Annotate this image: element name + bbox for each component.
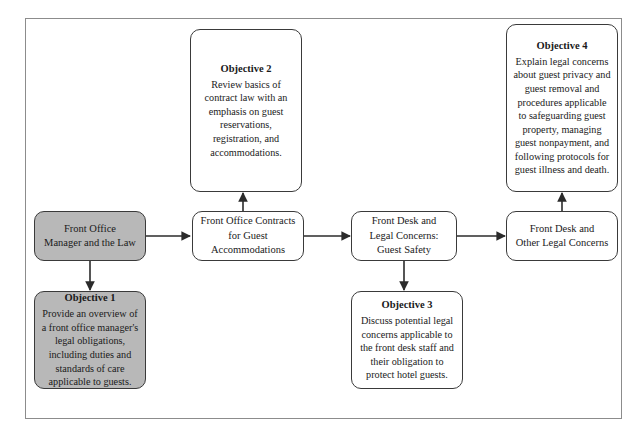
node-label-line1: Front Office Contracts xyxy=(201,214,296,228)
node-front-desk-other[interactable]: Front Desk and Other Legal Concerns xyxy=(506,211,618,261)
node-label-line3: Guest Safety xyxy=(377,243,431,257)
objective-4-title: Objective 4 xyxy=(536,39,587,53)
objective-3-text: Discuss potential legal concerns applica… xyxy=(358,314,456,382)
node-label-line1: Front Office xyxy=(64,222,116,236)
node-objective-3[interactable]: Objective 3 Discuss potential legal conc… xyxy=(351,291,463,389)
objective-1-title: Objective 1 xyxy=(64,291,115,305)
node-objective-1[interactable]: Objective 1 Provide an overview of a fro… xyxy=(34,291,146,389)
node-label-line2: Other Legal Concerns xyxy=(516,236,609,250)
objective-2-text: Review basics of contract law with an em… xyxy=(197,78,295,159)
node-front-office-manager[interactable]: Front Office Manager and the Law xyxy=(34,211,146,261)
diagram-canvas: Front Office Manager and the Law Objecti… xyxy=(0,0,642,433)
node-front-office-contracts[interactable]: Front Office Contracts for Guest Accommo… xyxy=(192,211,304,261)
node-label-line2: Manager and the Law xyxy=(44,236,136,250)
node-label-line3: Accommodations xyxy=(211,243,285,257)
objective-2-title: Objective 2 xyxy=(220,62,271,76)
node-objective-4[interactable]: Objective 4 Explain legal concerns about… xyxy=(506,24,618,192)
objective-3-title: Objective 3 xyxy=(381,298,432,312)
node-label-line1: Front Desk and xyxy=(530,222,595,236)
objective-4-text: Explain legal concerns about guest priva… xyxy=(513,55,611,177)
objective-1-text: Provide an overview of a front office ma… xyxy=(41,307,139,388)
node-objective-2[interactable]: Objective 2 Review basics of contract la… xyxy=(190,29,302,192)
node-label-line2: Legal Concerns: xyxy=(369,229,438,243)
node-label-line2: for Guest xyxy=(228,229,267,243)
node-front-desk-guest-safety[interactable]: Front Desk and Legal Concerns: Guest Saf… xyxy=(351,211,457,261)
node-label-line1: Front Desk and xyxy=(372,214,437,228)
